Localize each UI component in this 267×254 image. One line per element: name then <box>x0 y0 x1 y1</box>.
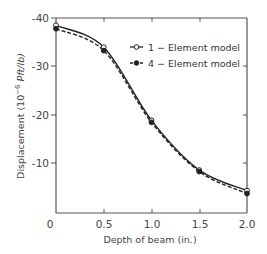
filled-circle-marker-icon <box>101 48 106 53</box>
y-tick-label: -20 <box>32 109 49 121</box>
filled-circle-marker-icon <box>149 120 154 125</box>
x-tick-label: 0 <box>47 218 54 230</box>
series-line-4-element <box>56 29 247 194</box>
y-axis-title: Displacement (10−6 Pft/lb) <box>14 53 26 179</box>
y-tick-label: -10 <box>32 157 49 169</box>
open-circle-marker-icon <box>134 45 139 50</box>
x-tick-label: 1.0 <box>144 218 161 230</box>
filled-circle-marker-icon <box>134 61 139 66</box>
x-tick-label: 0.5 <box>96 218 113 230</box>
legend: 1 − Element model 4 − Element model <box>130 42 240 69</box>
x-axis-title: Depth of beam (in.) <box>103 234 196 245</box>
y-tick-label: -30 <box>32 60 49 72</box>
filled-circle-marker-icon <box>245 191 250 196</box>
x-tick-label: 2.0 <box>239 218 256 230</box>
filled-circle-marker-icon <box>54 26 59 31</box>
x-tick-label: 1.5 <box>192 218 209 230</box>
chart: -40 -30 -20 -10 0 0.5 1.0 1.5 2.0 Depth … <box>0 0 267 254</box>
legend-label-4-element: 4 − Element model <box>148 58 240 69</box>
legend-label-1-element: 1 − Element model <box>148 42 240 53</box>
filled-circle-marker-icon <box>197 169 202 174</box>
y-tick-label: -40 <box>32 12 49 24</box>
